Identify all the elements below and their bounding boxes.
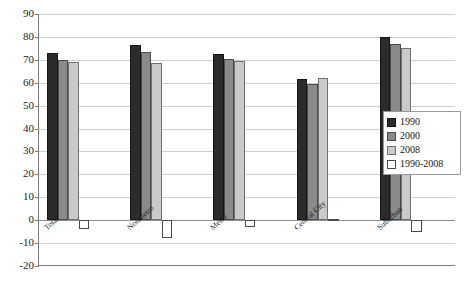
x-axis-label-nonmetro: Nonmetro xyxy=(126,204,155,232)
bar-chart: 9080706050403020100-10-20 TotalNonmetroM… xyxy=(0,0,466,288)
y-axis-tick-label: 50 xyxy=(23,100,34,111)
y-axis-tick-label: 60 xyxy=(23,77,34,88)
y-axis-tick-label: -10 xyxy=(19,237,34,248)
x-axis-label-total: Total xyxy=(43,215,60,232)
legend-swatch-2008-icon xyxy=(387,146,396,155)
y-axis-tick-label: 80 xyxy=(23,31,34,42)
legend-label: 1990 xyxy=(400,117,420,127)
legend-label: 2008 xyxy=(400,145,420,155)
y-axis-tick-label: -20 xyxy=(19,260,34,271)
legend-item[interactable]: 1990 xyxy=(387,115,457,129)
x-axis-label-suburban: Suburban xyxy=(376,206,404,232)
y-axis-tick-label: 20 xyxy=(23,168,34,179)
legend-swatch-2000-icon xyxy=(387,132,396,141)
legend-swatch-1990-icon xyxy=(387,118,396,127)
chart-legend: 1990 2000 2008 1990-2008 xyxy=(383,111,461,175)
y-axis-tick-label: 90 xyxy=(23,8,34,19)
y-axis-tick-label: 70 xyxy=(23,54,34,65)
y-axis-tick-label: 40 xyxy=(23,123,34,134)
legend-label: 1990-2008 xyxy=(400,159,443,169)
y-axis-tick-label: 0 xyxy=(29,214,35,225)
y-axis-tick-label: 30 xyxy=(23,145,34,156)
y-axis-tick-label: 10 xyxy=(23,191,34,202)
x-axis-label-metro: Metro xyxy=(209,213,229,232)
legend-item[interactable]: 2000 xyxy=(387,129,457,143)
x-axis-label-central-city: Central City xyxy=(293,200,328,232)
legend-label: 2000 xyxy=(400,131,420,141)
legend-item[interactable]: 2008 xyxy=(387,143,457,157)
y-axis-labels: 9080706050403020100-10-20 xyxy=(0,14,38,266)
legend-item[interactable]: 1990-2008 xyxy=(387,157,457,171)
legend-swatch-1990-2008-icon xyxy=(387,160,396,169)
